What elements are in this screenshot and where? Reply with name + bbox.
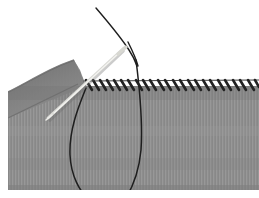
illustration-canvas	[0, 0, 259, 198]
bottom-margin	[0, 190, 259, 198]
sewing-illustration	[0, 0, 259, 198]
left-margin	[0, 0, 8, 198]
fabric-bottom-shadow	[8, 185, 259, 190]
